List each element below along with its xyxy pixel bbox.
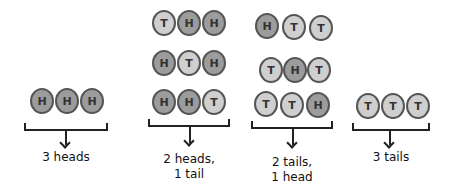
coin-heads: H (152, 89, 176, 115)
coin-tails: T (177, 50, 201, 76)
coin-heads: H (152, 50, 176, 76)
group-label: 3 tails (352, 150, 430, 165)
coin-tails: T (381, 93, 405, 119)
coin-tails: T (254, 91, 278, 117)
down-arrow-icon (65, 131, 67, 145)
group-label: 2 tails,1 head (251, 155, 333, 185)
coin-tails: T (406, 93, 430, 119)
coin-heads: H (55, 88, 79, 114)
coin-tails: T (356, 93, 380, 119)
coin-tails: T (280, 92, 304, 118)
coin-heads: H (202, 50, 226, 76)
down-arrow-icon (189, 127, 191, 143)
coin-heads: H (177, 89, 201, 115)
coin-tails: T (282, 14, 306, 40)
bracket (251, 121, 333, 129)
group-label: 2 heads,1 tail (148, 152, 230, 182)
coin-heads: H (202, 10, 226, 36)
coin-heads: H (255, 13, 279, 39)
coin-heads: H (30, 88, 54, 114)
down-arrow-icon (292, 129, 294, 145)
coin-heads: H (306, 92, 330, 118)
bracket (24, 123, 108, 131)
bracket (148, 119, 230, 127)
down-arrow-icon (389, 131, 391, 145)
coin-tails: T (259, 57, 283, 83)
bracket (352, 123, 430, 131)
coin-tails: T (202, 89, 226, 115)
coin-heads: H (80, 88, 104, 114)
group-label: 3 heads (24, 150, 108, 165)
coin-heads: H (177, 10, 201, 36)
coin-tails: T (309, 15, 333, 41)
coin-tails: T (152, 10, 176, 36)
coin-tails: T (307, 57, 331, 83)
coin-heads: H (283, 57, 307, 83)
